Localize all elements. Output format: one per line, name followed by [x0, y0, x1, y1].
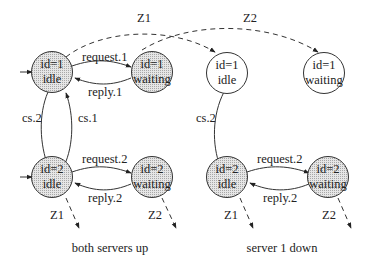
- state-node-p1-wait1: id=1 waiting: [132, 52, 173, 93]
- cs2-label: cs.2: [22, 111, 42, 125]
- z2-out-label: Z2: [148, 208, 162, 222]
- z1-out-edge: [66, 198, 79, 228]
- cs1-edge: [64, 93, 72, 166]
- cs2-edge: [41, 92, 48, 166]
- z2-cross-label: Z2: [243, 11, 257, 25]
- svg-text:idle: idle: [43, 177, 62, 191]
- svg-text:idle: idle: [43, 72, 62, 86]
- reply1-edge: [75, 78, 131, 84]
- state-node-p2-idle1: id=1 idle: [207, 53, 248, 94]
- cs2-edge: [214, 92, 224, 166]
- svg-text:id=1: id=1: [215, 58, 238, 72]
- svg-text:id=2: id=2: [40, 162, 63, 176]
- state-node-p2-wait2: id=2 waiting: [308, 157, 349, 198]
- request1-label: request.1: [82, 50, 127, 64]
- z1-out-edge: [240, 198, 253, 228]
- cs2-label: cs.2: [196, 111, 216, 125]
- reply2-edge: [75, 183, 131, 190]
- svg-text:idle: idle: [218, 73, 237, 87]
- svg-text:waiting: waiting: [133, 72, 171, 86]
- panel-server-1-down: cs.2 request.2 reply.2 Z1 Z2 id=1 idle i…: [196, 53, 351, 256]
- state-diagram: Z1 Z2 request.1 reply.1 cs.2 cs.1 reques…: [0, 0, 366, 272]
- z2-out-edge: [338, 198, 351, 228]
- svg-text:id=1: id=1: [140, 57, 163, 71]
- reply2-edge: [250, 183, 309, 190]
- svg-text:waiting: waiting: [133, 177, 171, 191]
- z2-out-label: Z2: [322, 208, 336, 222]
- z1-out-label: Z1: [224, 208, 238, 222]
- z2-cross-transition: [142, 28, 318, 52]
- svg-text:id=1: id=1: [312, 58, 335, 72]
- svg-text:id=2: id=2: [316, 162, 339, 176]
- request2-edge: [72, 167, 131, 173]
- panel-caption-server-1-down: server 1 down: [247, 241, 319, 255]
- reply2-label: reply.2: [88, 191, 122, 205]
- z2-out-edge: [162, 198, 176, 228]
- panel-both-servers-up: request.1 reply.1 cs.2 cs.1 request.2 re…: [20, 50, 176, 255]
- panel-caption-both-servers-up: both servers up: [72, 241, 148, 255]
- svg-text:waiting: waiting: [309, 177, 347, 191]
- request2-label: request.2: [257, 152, 302, 166]
- z1-cross-label: Z1: [137, 11, 151, 25]
- reply2-label: reply.2: [263, 191, 297, 205]
- state-node-p2-idle2: id=2 idle: [207, 157, 248, 198]
- svg-text:waiting: waiting: [305, 73, 343, 87]
- reply1-label: reply.1: [88, 85, 122, 99]
- svg-text:id=2: id=2: [215, 162, 238, 176]
- svg-text:idle: idle: [218, 177, 237, 191]
- svg-text:id=1: id=1: [40, 57, 63, 71]
- state-node-p1-idle1: id=1 idle: [32, 52, 73, 93]
- request2-edge: [247, 167, 309, 173]
- z1-out-label: Z1: [50, 208, 64, 222]
- svg-text:id=2: id=2: [140, 162, 163, 176]
- state-node-p1-idle2: id=2 idle: [32, 157, 73, 198]
- state-node-p2-wait1: id=1 waiting: [304, 53, 345, 94]
- cs1-label: cs.1: [78, 111, 98, 125]
- state-node-p1-wait2: id=2 waiting: [132, 157, 173, 198]
- request2-label: request.2: [82, 152, 127, 166]
